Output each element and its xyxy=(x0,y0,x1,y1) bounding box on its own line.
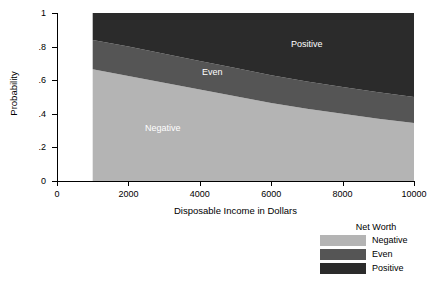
y-tick-mark xyxy=(52,47,57,48)
y-tick-label: 0 xyxy=(10,177,46,186)
area-bands xyxy=(92,13,414,181)
x-tick-label: 2000 xyxy=(106,190,150,199)
x-tick-mark xyxy=(414,181,415,186)
y-axis-title: Probability xyxy=(8,54,19,134)
y-tick-label: 1 xyxy=(10,9,46,18)
legend-swatch-negative xyxy=(320,235,366,246)
x-tick-mark xyxy=(200,181,201,186)
x-tick-label: 0 xyxy=(35,190,79,199)
x-tick-label: 10000 xyxy=(392,190,436,199)
y-tick-mark xyxy=(52,13,57,14)
legend-title: Net Worth xyxy=(324,222,428,232)
x-tick-mark xyxy=(57,181,58,186)
x-tick-mark xyxy=(343,181,344,186)
legend-swatch-even xyxy=(320,249,366,260)
legend: Net Worth NegativeEvenPositive xyxy=(320,222,442,274)
x-axis-title: Disposable Income in Dollars xyxy=(57,205,414,216)
legend-label: Positive xyxy=(372,263,404,274)
band-label-positive: Positive xyxy=(291,40,323,49)
x-tick-label: 4000 xyxy=(178,190,222,199)
y-tick-mark xyxy=(52,114,57,115)
x-tick-mark xyxy=(271,181,272,186)
x-tick-label: 6000 xyxy=(249,190,293,199)
y-tick-label: .8 xyxy=(10,43,46,52)
y-axis-line xyxy=(57,13,58,182)
legend-entries: NegativeEvenPositive xyxy=(320,235,442,274)
x-tick-mark xyxy=(128,181,129,186)
x-axis-line xyxy=(57,181,414,182)
band-label-even: Even xyxy=(202,68,223,77)
legend-item[interactable]: Positive xyxy=(320,263,442,274)
legend-label: Even xyxy=(372,249,393,260)
legend-item[interactable]: Even xyxy=(320,249,442,260)
plot-area xyxy=(92,13,414,181)
y-tick-label: .2 xyxy=(10,143,46,152)
x-tick-label: 8000 xyxy=(321,190,365,199)
y-tick-mark xyxy=(52,80,57,81)
legend-label: Negative xyxy=(372,235,408,246)
legend-item[interactable]: Negative xyxy=(320,235,442,246)
y-tick-mark xyxy=(52,147,57,148)
band-label-negative: Negative xyxy=(145,124,181,133)
stacked-area-chart: 0.2.4.6.81 0200040006000800010000 Probab… xyxy=(0,0,445,282)
legend-swatch-positive xyxy=(320,263,366,274)
